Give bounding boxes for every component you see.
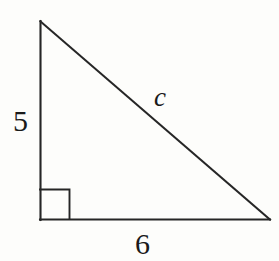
- triangle-drawing: [0, 0, 279, 261]
- horizontal-leg-label: 6: [135, 229, 150, 259]
- right-triangle-figure: 5 6 c: [0, 0, 279, 261]
- right-angle-marker-icon: [40, 190, 70, 220]
- vertical-leg-label: 5: [13, 106, 28, 136]
- hypotenuse-line: [41, 22, 271, 220]
- hypotenuse-label: c: [154, 84, 166, 111]
